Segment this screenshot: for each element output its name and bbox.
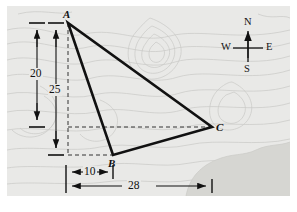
figure-root: A B C 20 25 10 28 N S E W <box>0 0 297 212</box>
compass-label-west: W <box>221 42 231 53</box>
compass-label-south: S <box>244 64 250 75</box>
triangle-ABC <box>68 23 212 155</box>
dimension-label-20: 20 <box>29 68 43 80</box>
vertex-label-C: C <box>216 122 223 133</box>
compass-label-north: N <box>244 17 252 28</box>
vertex-label-A: A <box>63 9 70 20</box>
dimension-label-10: 10 <box>83 166 97 178</box>
compass-rose-lines <box>233 31 263 62</box>
shaded-water-region <box>186 142 290 196</box>
compass-label-east: E <box>266 42 272 53</box>
diagram-vector-layer <box>0 0 297 212</box>
dimension-label-25: 25 <box>48 84 62 96</box>
vertex-label-B: B <box>108 158 115 169</box>
dimension-label-28: 28 <box>127 180 141 192</box>
